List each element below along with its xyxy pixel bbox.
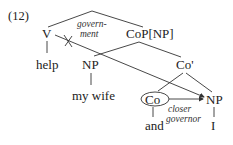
leaf-help: help [36,57,58,72]
government-label-2: ment [80,29,99,39]
branch-cop-cobar [139,42,181,57]
node-cop: CoP[NP] [126,26,174,41]
leaf-and: and [145,118,164,133]
closer-label-2: governor [166,114,201,124]
node-co: Co [145,92,160,107]
node-v: V [42,26,52,41]
example-number: (12) [8,9,29,23]
closer-label-1: closer [168,104,192,114]
node-np-object: NP [82,57,99,72]
leaf-i: I [211,118,215,133]
node-np-conjunct: NP [206,92,223,107]
node-co-bar: Co' [176,57,194,72]
syntax-tree-diagram: (12) V help govern- ment CoP[NP] NP my w… [0,0,233,145]
leaf-my-wife: my wife [72,88,115,103]
government-label-1: govern- [77,19,107,29]
branch-cobar-np [186,73,212,92]
branch-cobar-co [158,73,183,91]
branch-cop-np [94,42,139,56]
